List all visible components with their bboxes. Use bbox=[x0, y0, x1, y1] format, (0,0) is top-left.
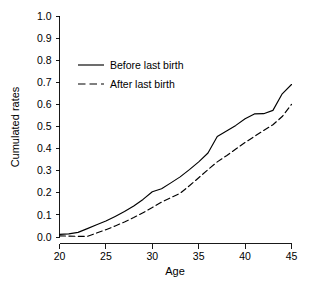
x-tick-label: 40 bbox=[239, 250, 251, 262]
y-tick-label: 0.5 bbox=[37, 120, 52, 132]
series-line-after-last-birth bbox=[60, 104, 292, 236]
y-tick-label: 0.3 bbox=[37, 164, 52, 176]
y-tick-label: 0.9 bbox=[37, 32, 52, 44]
x-axis-title: Age bbox=[165, 265, 185, 277]
series-line-before-last-birth bbox=[60, 85, 292, 235]
x-tick-label: 35 bbox=[193, 250, 205, 262]
y-tick-label: 0.1 bbox=[37, 209, 52, 221]
x-tick-label: 30 bbox=[146, 250, 158, 262]
x-axis-ticks bbox=[60, 244, 292, 250]
y-tick-label: 0.0 bbox=[37, 231, 52, 243]
x-tick-label: 20 bbox=[54, 250, 66, 262]
y-axis-title: Cumulated rates bbox=[9, 86, 21, 167]
legend-label-before-last-birth: Before last birth bbox=[110, 59, 184, 71]
y-axis-ticks bbox=[56, 16, 60, 237]
legend-label-after-last-birth: After last birth bbox=[110, 78, 175, 90]
x-tick-label: 25 bbox=[100, 250, 112, 262]
y-tick-label: 0.2 bbox=[37, 186, 52, 198]
chart-legend: Before last birth After last birth bbox=[78, 59, 184, 90]
x-tick-label: 45 bbox=[286, 250, 298, 262]
y-axis-tick-labels: 0.00.10.20.30.40.50.60.70.80.91.0 bbox=[37, 10, 52, 243]
y-tick-label: 0.7 bbox=[37, 76, 52, 88]
x-axis-tick-labels: 202530354045 bbox=[54, 250, 298, 262]
chart-container: 0.00.10.20.30.40.50.60.70.80.91.0 202530… bbox=[0, 0, 309, 286]
y-tick-label: 0.6 bbox=[37, 98, 52, 110]
y-tick-label: 1.0 bbox=[37, 10, 52, 22]
line-chart: 0.00.10.20.30.40.50.60.70.80.91.0 202530… bbox=[0, 0, 309, 286]
y-tick-label: 0.8 bbox=[37, 54, 52, 66]
y-tick-label: 0.4 bbox=[37, 142, 52, 154]
data-series-group bbox=[60, 85, 292, 237]
